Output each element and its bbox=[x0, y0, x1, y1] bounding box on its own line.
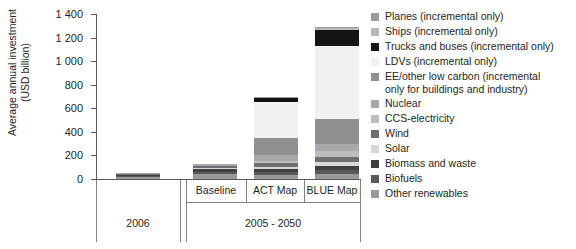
legend-item[interactable]: Wind bbox=[371, 127, 576, 141]
legend-item[interactable]: Planes (incremental only) bbox=[371, 10, 576, 24]
y-tick-label: 400 bbox=[65, 127, 83, 138]
legend-label: Trucks and buses (incremental only) bbox=[385, 40, 554, 53]
legend-label: Wind bbox=[385, 127, 409, 140]
bar-segment bbox=[116, 177, 160, 179]
y-tick-label: 0 bbox=[77, 174, 83, 185]
scenario-label: ACT Map bbox=[246, 185, 304, 196]
stacked-bar bbox=[193, 164, 237, 179]
legend-swatch-icon bbox=[371, 58, 379, 66]
chart-legend: Planes (incremental only)Ships (incremen… bbox=[371, 10, 576, 202]
bar-segment bbox=[254, 98, 298, 102]
y-tick-label: 1 000 bbox=[55, 56, 83, 67]
legend-item[interactable]: Biomass and waste bbox=[371, 157, 576, 171]
legend-item[interactable]: Ships (incremental only) bbox=[371, 25, 576, 39]
bar-segment bbox=[315, 30, 359, 47]
y-tick-mark: 1 000 bbox=[91, 61, 96, 62]
period-label: 2006 bbox=[96, 218, 180, 229]
stacked-bar bbox=[254, 97, 298, 180]
bar-segment bbox=[193, 168, 237, 169]
legend-swatch-icon bbox=[371, 13, 379, 21]
bar-segment bbox=[315, 144, 359, 151]
legend-label: Biofuels bbox=[385, 172, 422, 185]
bar-segment bbox=[315, 28, 359, 29]
bar-segment bbox=[254, 97, 298, 98]
bar-segment bbox=[315, 162, 359, 166]
y-tick-mark: 200 bbox=[91, 155, 96, 156]
bar-segment bbox=[193, 169, 237, 172]
bar-segment bbox=[254, 138, 298, 156]
axis-divider bbox=[180, 180, 181, 242]
axis-divider bbox=[186, 202, 360, 203]
axis-divider bbox=[360, 180, 361, 242]
y-tick-label: 1 400 bbox=[55, 9, 83, 20]
bar-segment bbox=[254, 169, 298, 172]
legend-item[interactable]: Biofuels bbox=[371, 172, 576, 186]
legend-label: CCS-electricity bbox=[385, 112, 454, 125]
y-axis-title: Average annual investment (USD billion) bbox=[6, 0, 31, 163]
legend-label: LDVs (incremental only) bbox=[385, 55, 497, 68]
y-tick-mark: 800 bbox=[91, 85, 96, 86]
legend-swatch-icon bbox=[371, 43, 379, 51]
legend-label: Solar bbox=[385, 142, 410, 155]
legend-item[interactable]: Trucks and buses (incremental only) bbox=[371, 40, 576, 54]
legend-swatch-icon bbox=[371, 130, 379, 138]
bar-segment bbox=[254, 161, 298, 163]
y-tick-label: 200 bbox=[65, 150, 83, 161]
stacked-bar bbox=[315, 27, 359, 179]
bar-segment bbox=[254, 155, 298, 161]
legend-item[interactable]: EE/other low carbon (incremental only fo… bbox=[371, 70, 576, 96]
bar-segment bbox=[315, 151, 359, 157]
legend-item[interactable]: Solar bbox=[371, 142, 576, 156]
bar-segment bbox=[315, 157, 359, 162]
axis-divider bbox=[96, 180, 97, 242]
bar-segment bbox=[254, 163, 298, 167]
bar-segment bbox=[116, 174, 160, 175]
legend-item[interactable]: LDVs (incremental only) bbox=[371, 55, 576, 69]
bar-segment bbox=[116, 176, 160, 177]
legend-label: Other renewables bbox=[385, 187, 468, 200]
legend-item[interactable]: Nuclear bbox=[371, 97, 576, 111]
bar-segment bbox=[254, 175, 298, 179]
chart-figure: Average annual investment (USD billion) … bbox=[0, 0, 576, 249]
y-tick-mark: 1 400 bbox=[91, 14, 96, 15]
y-tick-mark: 400 bbox=[91, 132, 96, 133]
scenario-label: Baseline bbox=[186, 185, 246, 196]
category-axis-table: BaselineACT MapBLUE Map20062005 - 2050 bbox=[96, 180, 361, 242]
y-tick-mark: 600 bbox=[91, 108, 96, 109]
bar-segment bbox=[315, 166, 359, 170]
legend-swatch-icon bbox=[371, 175, 379, 183]
bar-segment bbox=[193, 166, 237, 168]
legend-swatch-icon bbox=[371, 190, 379, 198]
bar-segment bbox=[315, 170, 359, 174]
stacked-bar bbox=[116, 173, 160, 179]
legend-label: Planes (incremental only) bbox=[385, 10, 503, 23]
legend-swatch-icon bbox=[371, 28, 379, 36]
bar-segment bbox=[116, 175, 160, 176]
bar-segment bbox=[315, 119, 359, 145]
legend-item[interactable]: CCS-electricity bbox=[371, 112, 576, 126]
bar-segment bbox=[315, 46, 359, 118]
legend-item[interactable]: Other renewables bbox=[371, 187, 576, 201]
legend-label: EE/other low carbon (incremental only fo… bbox=[385, 70, 540, 96]
legend-label: Biomass and waste bbox=[385, 157, 476, 170]
bar-segment bbox=[254, 102, 298, 137]
legend-label: Nuclear bbox=[385, 97, 421, 110]
y-tick-label: 600 bbox=[65, 103, 83, 114]
scenario-label: BLUE Map bbox=[304, 185, 360, 196]
bar-segment bbox=[116, 173, 160, 174]
y-tick-label: 800 bbox=[65, 80, 83, 91]
bar-segment bbox=[254, 167, 298, 169]
bar-segment bbox=[193, 174, 237, 179]
legend-swatch-icon bbox=[371, 145, 379, 153]
bar-segment bbox=[254, 172, 298, 175]
legend-swatch-icon bbox=[371, 100, 379, 108]
legend-label: Ships (incremental only) bbox=[385, 25, 498, 38]
bar-segment bbox=[254, 97, 298, 98]
y-tick-label: 1 200 bbox=[55, 33, 83, 44]
legend-swatch-icon bbox=[371, 160, 379, 168]
y-axis-line bbox=[96, 14, 97, 180]
bar-segment bbox=[315, 27, 359, 28]
bar-segment bbox=[193, 172, 237, 174]
plot-area: 02004006008001 0001 2001 400 bbox=[96, 14, 361, 180]
legend-swatch-icon bbox=[371, 115, 379, 123]
